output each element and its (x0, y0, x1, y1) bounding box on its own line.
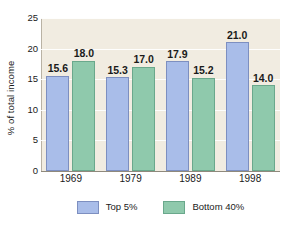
chart-legend: Top 5%Bottom 40% (41, 196, 280, 218)
bar-value-label: 14.0 (248, 73, 279, 84)
bar (192, 78, 215, 171)
x-axis-tick-label: 1989 (179, 174, 201, 184)
y-axis-tick-labels: 0510152025 (12, 0, 38, 230)
y-axis-tick-label: 15 (16, 74, 38, 84)
bar-value-label: 17.0 (128, 54, 159, 65)
bar (106, 77, 129, 171)
legend-item[interactable]: Bottom 40% (163, 201, 244, 214)
x-axis-tick-label: 1998 (239, 174, 261, 184)
x-axis-tick-label: 1969 (60, 174, 82, 184)
y-axis-tick-label: 20 (16, 44, 38, 54)
bar-value-label: 15.6 (42, 63, 73, 74)
gridline (41, 18, 280, 19)
bar (132, 67, 155, 171)
bar (46, 76, 69, 171)
legend-item-label: Top 5% (106, 202, 138, 212)
bar (72, 61, 95, 171)
bar-value-label: 21.0 (222, 30, 253, 41)
y-axis-tick-label: 10 (16, 105, 38, 115)
x-axis-line (41, 171, 280, 172)
legend-swatch-icon (77, 201, 99, 214)
legend-item[interactable]: Top 5% (77, 201, 138, 214)
x-axis-tick-label: 1979 (120, 174, 142, 184)
bar (252, 85, 275, 171)
y-axis-line (41, 18, 42, 172)
y-axis-tick-label: 25 (16, 13, 38, 23)
legend-swatch-icon (163, 201, 185, 214)
y-axis-tick-label: 0 (16, 166, 38, 176)
bar-value-label: 15.3 (102, 65, 133, 76)
bar (226, 42, 249, 171)
bar-value-label: 15.2 (188, 65, 219, 76)
y-axis-tick-label: 5 (16, 136, 38, 146)
plot-area: 15.618.015.317.017.915.221.014.0 (41, 18, 280, 172)
legend-item-label: Bottom 40% (192, 202, 244, 212)
bar-value-label: 18.0 (68, 48, 99, 59)
bar-chart-figure: % of total income 0510152025 15.618.015.… (0, 0, 287, 230)
x-axis-tick-labels: 1969197919891998 (41, 174, 280, 190)
bar-value-label: 17.9 (162, 49, 193, 60)
bar (166, 61, 189, 171)
